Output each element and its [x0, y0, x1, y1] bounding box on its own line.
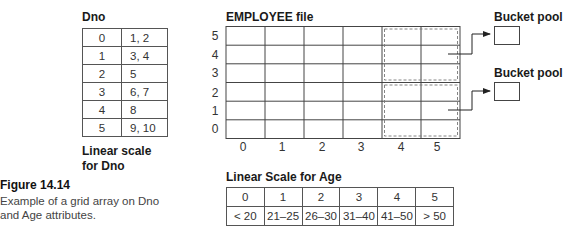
table-row: 0 1 2 3 4 5	[227, 188, 454, 207]
age-index-cell: 3	[340, 188, 378, 207]
age-scale-title: Linear Scale for Age	[226, 170, 342, 184]
age-index-cell: 1	[264, 188, 302, 207]
age-linear-scale-table: 0 1 2 3 4 5 < 20 21–25 26–30 31–40 41–50…	[226, 187, 454, 226]
age-range-cell: < 20	[227, 207, 265, 226]
age-range-cell: 21–25	[264, 207, 302, 226]
age-range-cell: 26–30	[302, 207, 340, 226]
age-range-cell: > 50	[416, 207, 454, 226]
age-index-cell: 0	[227, 188, 265, 207]
age-range-cell: 31–40	[340, 207, 378, 226]
age-index-cell: 4	[378, 188, 416, 207]
bucket-pool-label: Bucket pool	[494, 66, 563, 80]
table-row: < 20 21–25 26–30 31–40 41–50 > 50	[227, 207, 454, 226]
grid-cells	[226, 27, 460, 139]
bucket-boxes	[495, 27, 520, 101]
age-index-cell: 5	[416, 188, 454, 207]
bucket-pool-label: Bucket pool	[494, 10, 563, 24]
age-range-cell: 41–50	[378, 207, 416, 226]
age-index-cell: 2	[302, 188, 340, 207]
